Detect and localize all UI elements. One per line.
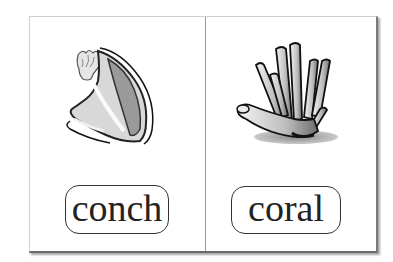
card-panel-conch: conch [30,17,205,251]
coral-icon [234,39,346,147]
card-panel-coral: coral [206,17,376,251]
word-text: coral [248,189,324,227]
word-label-conch: conch [65,185,169,234]
flashcard: conch [29,16,378,253]
conch-shell-icon [64,45,160,147]
word-text: conch [72,189,163,227]
word-label-coral: coral [231,186,341,234]
